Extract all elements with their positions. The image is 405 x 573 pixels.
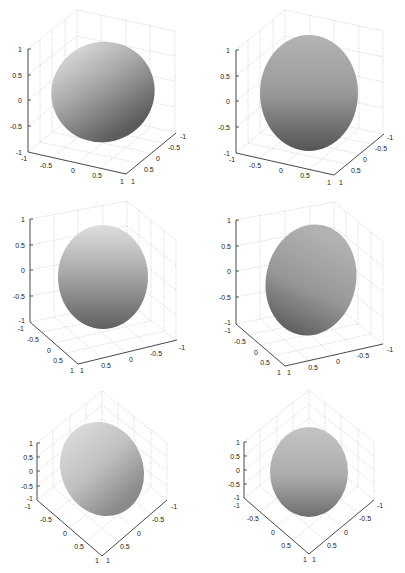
axis-tick: -0.5: [357, 352, 369, 359]
axis-tick: 1: [287, 369, 291, 376]
plot-panel-5: 1 0.5 0 -0.5 -1 -1 -0.5 0 0.5 1 1 0.5 0 …: [0, 380, 200, 573]
y-tick: -1: [387, 134, 393, 141]
z-tick: 1: [18, 46, 22, 53]
plot-panel-3: 1 0.5 0 -0.5 -1 -1 -0.5 0 0.5 1 1 0.5 0 …: [0, 190, 200, 380]
left-axis-tick-labels: -1 -0.5 0 0.5 1: [25, 503, 99, 564]
z-tick: 0.5: [23, 454, 33, 461]
z-tick: 0.5: [12, 72, 22, 79]
z-tick: 0.5: [15, 242, 25, 249]
axis-tick: 0: [271, 529, 275, 536]
x-tick: 0: [279, 167, 283, 174]
axis-tick: 0: [137, 530, 141, 537]
plot-6-canvas: 1 0.5 0 -0.5 -1 -1 -0.5 0 0.5 1 1 0.5 0 …: [200, 380, 405, 573]
axis-tick: 1: [70, 367, 74, 374]
y-tick-labels: 1 0.5 0 -0.5 -1: [131, 133, 186, 185]
z-tick: 0.5: [221, 243, 231, 250]
y-tick: 1: [131, 178, 135, 185]
x-tick: 0: [71, 167, 75, 174]
z-tick: -1: [225, 319, 231, 326]
axis-tick: 1: [95, 557, 99, 564]
y-tick: 1: [339, 179, 343, 186]
x-tick: 0.5: [92, 172, 102, 179]
z-tick: -0.5: [218, 124, 230, 131]
axis-tick: 0.5: [327, 542, 337, 549]
z-tick: 0: [21, 267, 25, 274]
plot-panel-1: 1 0.5 0 -0.5 -1 -1 -0.5 0 0.5 1 1 0.5 0 …: [0, 0, 200, 190]
z-tick: -0.5: [219, 294, 231, 301]
y-tick: -0.5: [168, 144, 180, 151]
axis-tick: -0.5: [359, 515, 371, 522]
axis-tick: -1: [25, 503, 31, 510]
axis-tick: -0.5: [152, 516, 164, 523]
y-tick: 0.5: [144, 166, 154, 173]
y-tick: -0.5: [375, 145, 387, 152]
right-axis-tick-labels: 1 0.5 0 -0.5 -1: [80, 344, 185, 374]
axis-tick: 0: [129, 356, 133, 363]
axis-tick: 0.5: [74, 543, 84, 550]
axis-tick: -1: [171, 503, 177, 510]
ellipsoid-surface: [255, 216, 366, 344]
z-tick: -1: [27, 495, 33, 502]
ellipsoid-surface: [270, 427, 348, 517]
axis-tick: -1: [179, 344, 185, 351]
axis-tick: 0.5: [53, 357, 63, 364]
plot-2-canvas: 1 0.5 0 -0.5 -1 -1 -0.5 0 0.5 1 1 0.5 0 …: [200, 0, 405, 190]
axis-tick: 1: [312, 556, 316, 563]
ellipsoid-surface: [46, 409, 158, 529]
z-tick: 1: [29, 440, 33, 447]
axis-tick: 0.5: [101, 362, 111, 369]
axis-tick: 1: [106, 557, 110, 564]
z-tick: 0: [18, 97, 22, 104]
plot-3-canvas: 1 0.5 0 -0.5 -1 -1 -0.5 0 0.5 1 1 0.5 0 …: [0, 190, 200, 380]
plot-5-canvas: 1 0.5 0 -0.5 -1 -1 -0.5 0 0.5 1 1 0.5 0 …: [0, 380, 200, 573]
z-tick: 1: [236, 439, 240, 446]
axis-tick: -0.5: [150, 350, 162, 357]
x-tick: -0.5: [40, 162, 52, 169]
z-tick: -0.5: [10, 123, 22, 130]
axis-tick: 0.5: [120, 543, 130, 550]
axis-tick: 0: [336, 358, 340, 365]
x-tick: -1: [21, 155, 27, 162]
axis-tick: -1: [225, 327, 231, 334]
z-tick: -1: [19, 317, 25, 324]
axis-tick: -1: [234, 502, 240, 509]
left-axis-tick-labels: -1 -0.5 0 0.5 1: [225, 327, 281, 376]
z-tick: 0: [226, 98, 230, 105]
z-tick: 0: [236, 467, 240, 474]
y-tick: 0: [363, 156, 367, 163]
z-tick-labels: 1 0.5 0 -0.5 -1: [13, 216, 25, 324]
z-tick: 0.5: [220, 73, 230, 80]
axis-tick: 1: [277, 369, 281, 376]
z-tick: 0: [29, 468, 33, 475]
ellipsoid-surface: [35, 25, 172, 160]
axis-tick: -1: [387, 346, 393, 353]
plot-4-canvas: 1 0.5 0 -0.5 -1 -1 -0.5 0 0.5 1 1 0.5 0 …: [200, 190, 405, 380]
plot-1-canvas: 1 0.5 0 -0.5 -1 -1 -0.5 0 0.5 1 1 0.5 0 …: [0, 0, 200, 190]
axis-tick: 0.5: [281, 542, 291, 549]
axis-tick: -1: [18, 325, 24, 332]
x-tick: -1: [229, 156, 235, 163]
z-tick: -0.5: [228, 481, 240, 488]
axis-tick: -0.5: [247, 515, 259, 522]
axis-tick: -1: [377, 502, 383, 509]
z-tick: -0.5: [13, 293, 25, 300]
plot-panel-4: 1 0.5 0 -0.5 -1 -1 -0.5 0 0.5 1 1 0.5 0 …: [200, 190, 405, 380]
y-tick: 0.5: [351, 167, 361, 174]
axis-tick: 0.5: [260, 359, 270, 366]
z-tick: -0.5: [21, 483, 33, 490]
ellipsoid-surface: [260, 35, 358, 151]
plot-panel-6: 1 0.5 0 -0.5 -1 -1 -0.5 0 0.5 1 1 0.5 0 …: [200, 380, 405, 573]
z-tick: 1: [226, 47, 230, 54]
x-tick: 0.5: [300, 172, 310, 179]
ellipsoid-surface: [58, 225, 148, 329]
axis-tick: 0: [63, 530, 67, 537]
z-tick: 0.5: [230, 453, 240, 460]
z-tick: 1: [227, 217, 231, 224]
z-tick: 1: [21, 216, 25, 223]
axis-tick: 1: [80, 367, 84, 374]
left-axis-tick-labels: -1 -0.5 0 0.5 1: [18, 325, 74, 374]
z-tick: -1: [234, 494, 240, 501]
axis-tick: 0: [344, 529, 348, 536]
z-tick-labels: 1 0.5 0 -0.5 -1: [21, 440, 33, 502]
y-tick-labels: 1 0.5 0 -0.5 -1: [339, 134, 393, 186]
